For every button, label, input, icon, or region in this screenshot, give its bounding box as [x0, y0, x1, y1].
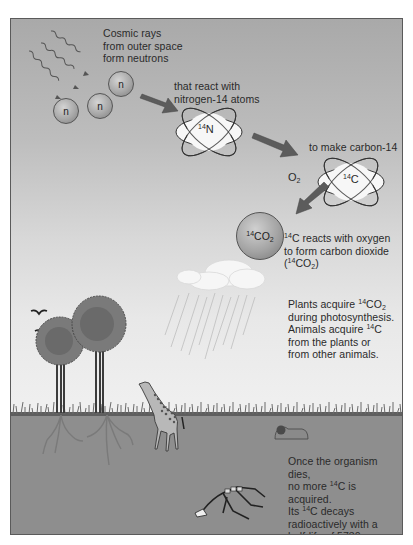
- make-carbon-label: to make carbon-14: [309, 141, 397, 154]
- arrow-icon: [296, 182, 336, 222]
- neutron-particle: n: [87, 93, 113, 119]
- plants-animals-label: Plants acquire 14CO2 during photosynthes…: [288, 298, 394, 361]
- tree-tall-icon: [69, 293, 129, 413]
- carbon-label: 14C: [343, 173, 359, 185]
- neutron-particle: n: [108, 71, 134, 97]
- giraffe-icon: [137, 381, 187, 461]
- diagram-frame: Cosmic rays from outer space form neutro…: [10, 18, 403, 535]
- skeleton-fossil-icon: [191, 483, 271, 528]
- arrow-icon: [254, 129, 304, 159]
- cosmic-rays-icon: [19, 25, 99, 105]
- co2-reaction-label: 14C reacts with oxygen to form carbon di…: [284, 232, 390, 270]
- cosmic-rays-label: Cosmic rays from outer space form neutro…: [103, 27, 183, 65]
- co2-molecule: 14CO2: [236, 212, 284, 260]
- react-label: that react with nitrogen-14 atoms: [174, 80, 259, 105]
- animal-icon: [273, 423, 313, 443]
- neutron-particle: n: [53, 98, 79, 124]
- rain-cloud-icon: [169, 255, 269, 365]
- tree-roots-icon: [31, 415, 151, 485]
- nitrogen-label: 14N: [198, 123, 214, 135]
- decay-label: Once the organism dies, no more 14C is a…: [288, 455, 402, 535]
